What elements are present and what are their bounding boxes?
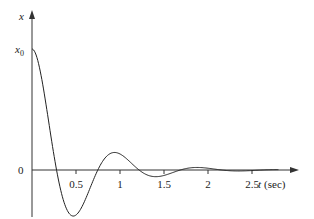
x0-label: x0 [14,43,24,58]
x-ticks: 0.511.522.5 [69,170,259,190]
x-tick-label: 0.5 [69,178,83,190]
chart: 0.511.522.5 x x0 0 t(sec) [0,0,314,219]
y-axis-arrow-icon [29,10,35,19]
x-axis-label: t(sec) [258,178,286,191]
response-curve [32,49,278,216]
y-axis-label: x [18,10,24,22]
x-tick-label: 1.5 [157,178,171,190]
x-axis-arrow-icon [290,167,299,173]
zero-label: 0 [18,164,24,176]
x-tick-label: 2 [205,178,211,190]
x-tick-label: 1 [117,178,123,190]
